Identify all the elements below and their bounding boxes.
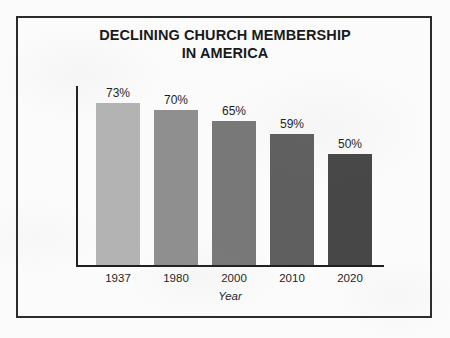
x-tick-label-2020: 2020	[322, 272, 378, 285]
bar-rect-2020	[328, 154, 372, 265]
x-tick-label-2000: 2000	[206, 272, 262, 285]
bar-2010: 59%	[270, 88, 314, 265]
bar-value-label-1980: 70%	[164, 94, 188, 107]
bar-rect-1937	[96, 103, 140, 265]
bar-value-label-2010: 59%	[280, 118, 304, 131]
x-tick-label-2010: 2010	[264, 272, 320, 285]
chart-figure: DECLINING CHURCH MEMBERSHIP IN AMERICA C…	[0, 0, 450, 338]
bar-rect-1980	[154, 110, 198, 265]
bar-series: 73%70%65%59%50%	[78, 88, 384, 265]
bar-1937: 73%	[96, 88, 140, 265]
bar-1980: 70%	[154, 88, 198, 265]
bar-2020: 50%	[328, 88, 372, 265]
bar-value-label-1937: 73%	[106, 87, 130, 100]
bar-rect-2000	[212, 121, 256, 265]
chart-title: DECLINING CHURCH MEMBERSHIP IN AMERICA	[40, 26, 410, 62]
plot-area: 73%70%65%59%50%	[76, 86, 384, 267]
bar-value-label-2000: 65%	[222, 105, 246, 118]
bar-2000: 65%	[212, 88, 256, 265]
chart-title-line-1: DECLINING CHURCH MEMBERSHIP	[99, 27, 351, 43]
chart-title-line-2: IN AMERICA	[40, 44, 410, 62]
x-axis-line	[76, 265, 384, 267]
bar-value-label-2020: 50%	[338, 138, 362, 151]
x-axis-title: Year	[76, 290, 384, 302]
x-tick-label-1980: 1980	[148, 272, 204, 285]
x-tick-label-1937: 1937	[90, 272, 146, 285]
bar-rect-2010	[270, 134, 314, 265]
